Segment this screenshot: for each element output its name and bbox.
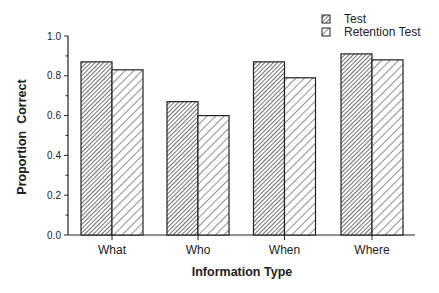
y-axis: 0.00.20.40.60.81.0: [47, 31, 68, 241]
bar-what-test: [81, 62, 112, 235]
bar-who-test: [167, 102, 198, 235]
bar-who-retention-test: [198, 116, 229, 235]
legend: TestRetention Test: [322, 12, 421, 39]
bar-chart: 0.00.20.40.60.81.0 WhatWhoWhenWhere Test…: [0, 0, 439, 293]
y-axis-title: Proportion Correct: [15, 79, 29, 195]
legend-label: Retention Test: [344, 25, 421, 39]
legend-swatch-test: [322, 15, 330, 23]
x-axis-title: Information Type: [192, 265, 293, 279]
legend-swatch-retention-test: [322, 28, 330, 36]
x-axis: WhatWhoWhenWhere: [68, 235, 415, 257]
bars-group: [81, 54, 403, 235]
bar-where-test: [341, 54, 372, 235]
y-tick-label: 0.2: [47, 190, 61, 201]
bar-what-retention-test: [112, 70, 143, 235]
y-tick-label: 0.8: [47, 70, 61, 81]
x-category-label: What: [98, 243, 127, 257]
y-tick-label: 1.0: [47, 31, 61, 42]
y-tick-label: 0.0: [47, 230, 61, 241]
x-category-label: Who: [186, 243, 211, 257]
x-category-label: When: [269, 243, 300, 257]
legend-label: Test: [344, 12, 367, 26]
bar-when-test: [254, 62, 285, 235]
x-category-label: Where: [354, 243, 390, 257]
bar-where-retention-test: [372, 60, 403, 235]
bar-when-retention-test: [285, 78, 316, 235]
y-tick-label: 0.6: [47, 110, 61, 121]
y-tick-label: 0.4: [47, 150, 61, 161]
